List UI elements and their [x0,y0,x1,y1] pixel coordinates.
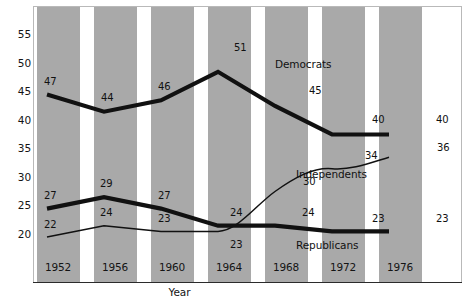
independents-point-label-1952: 22 [44,220,57,230]
democrats-line [47,72,389,135]
republicans-point-label-1976: 23 [436,214,449,224]
republicans-point-label-1956: 29 [100,179,113,189]
independents-series-label: Independents [296,169,367,180]
democrats-point-label-1976: 40 [436,115,449,125]
independents-point-label-1976: 36 [437,143,450,153]
democrats-point-label-1964: 51 [234,43,247,53]
independents-point-label-1972: 34 [365,151,378,161]
democrats-point-label-1952: 47 [44,77,57,87]
democrats-point-label-1972: 40 [372,115,385,125]
republicans-series-label: Republicans [296,240,358,251]
democrats-series-label: Democrats [275,59,331,70]
independents-point-label-1960: 23 [158,214,171,224]
republicans-point-label-1968: 24 [302,208,315,218]
democrats-point-label-1960: 46 [158,82,171,92]
democrats-point-label-1956: 44 [101,93,114,103]
party-identification-line-chart: 55 50 45 40 35 30 25 20 1952 1956 1960 1… [0,0,471,300]
democrats-point-label-1968: 45 [309,86,322,96]
republicans-point-label-1964: 24 [230,208,243,218]
republicans-point-label-1972: 23 [372,214,385,224]
independents-point-label-1956: 24 [100,208,113,218]
republicans-point-label-1952: 27 [44,191,57,201]
republicans-point-label-1960: 27 [158,191,171,201]
independents-point-label-1964: 23 [230,240,243,250]
